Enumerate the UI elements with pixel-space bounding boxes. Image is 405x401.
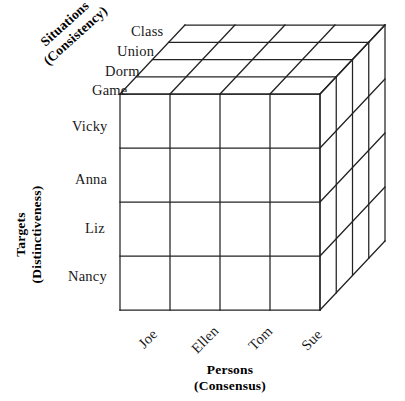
- vertical-tick-anna: Anna: [75, 171, 107, 188]
- vertical-axis-title-line2: (Distinctiveness): [29, 175, 45, 295]
- vertical-tick-vicky: Vicky: [72, 118, 108, 135]
- vertical-tick-liz: Liz: [85, 220, 105, 237]
- horizontal-axis-title-line1: Persons: [155, 362, 305, 378]
- horizontal-axis-title: Persons (Consensus): [155, 362, 305, 394]
- vertical-tick-nancy: Nancy: [68, 268, 107, 285]
- vertical-axis-title: Targets (Distinctiveness): [13, 175, 44, 295]
- depth-tick-union: Union: [117, 43, 154, 60]
- horizontal-axis-title-line2: (Consensus): [155, 378, 305, 394]
- depth-tick-game: Game: [92, 82, 127, 99]
- covariation-cube-figure: Class Union Dorm Game Situations (Consis…: [0, 0, 405, 401]
- depth-tick-class: Class: [131, 23, 163, 40]
- depth-tick-dorm: Dorm: [105, 63, 140, 80]
- vertical-axis-title-line1: Targets: [13, 175, 29, 295]
